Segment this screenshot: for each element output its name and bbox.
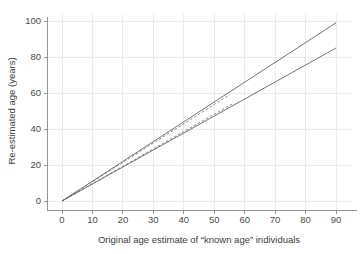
x-tick-label: 0 <box>59 214 64 225</box>
chart-figure: 0102030405060708090 020406080100 Origina… <box>0 0 362 254</box>
x-tick-label: 80 <box>300 214 311 225</box>
x-tick-label: 10 <box>87 214 98 225</box>
x-tick-label: 60 <box>239 214 250 225</box>
y-tick-label: 0 <box>36 195 41 206</box>
x-tick-label: 30 <box>148 214 159 225</box>
y-tick-label: 60 <box>30 87 41 98</box>
y-tick-label: 80 <box>30 51 41 62</box>
y-tick-label: 100 <box>25 15 41 26</box>
x-tick-label: 70 <box>270 214 281 225</box>
x-axis-title: Original age estimate of “known age” ind… <box>98 234 300 245</box>
x-tick-label: 90 <box>331 214 342 225</box>
chart-canvas: 0102030405060708090 020406080100 Origina… <box>0 0 362 254</box>
x-tick-label: 50 <box>209 214 220 225</box>
y-tick-label: 20 <box>30 159 41 170</box>
x-tick-label: 40 <box>178 214 189 225</box>
y-axis-title: Re-estimated age (years) <box>6 57 17 164</box>
y-tick-label: 40 <box>30 123 41 134</box>
x-tick-label: 20 <box>118 214 129 225</box>
